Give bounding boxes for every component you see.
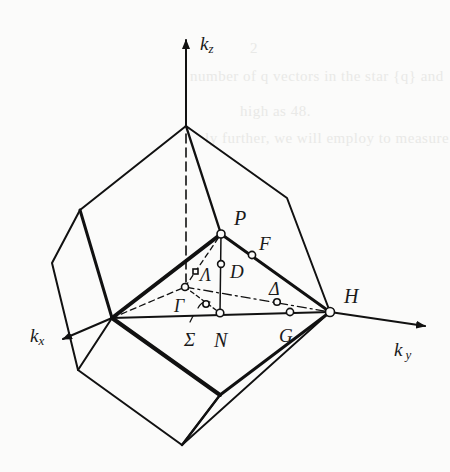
point-N [216,309,224,317]
dashed-Gamma-to-H [185,287,330,312]
point-P [217,230,225,238]
edge-UL-to-Hprime [80,210,112,318]
ky-label-sub: y [405,347,411,362]
line-P-to-N [220,234,221,313]
label-H: H [344,286,358,306]
point-G [286,308,293,315]
label-D: D [230,262,244,281]
kz-axis-label: kz [200,34,214,55]
label-N: N [214,330,227,350]
label-Delta: Δ [269,280,280,298]
kx-label-sub: x [38,333,44,348]
label-G: G [279,326,293,345]
label-F: F [259,234,271,253]
point-F [248,251,255,258]
brillouin-zone-diagram [0,0,450,472]
point-Lambda [193,269,198,274]
label-Lambda: Λ [200,266,211,284]
edge-LR-to-H [220,312,330,395]
edge-Hprime-to-LR [112,318,220,395]
point-Sigma [203,301,209,307]
kz-label-sub: z [208,41,213,56]
sigma-tick [190,316,193,322]
outer-edge-top-left [52,126,220,445]
point-H [326,308,335,317]
edge-bottom-to-H [182,312,330,445]
point-D [218,261,225,268]
edge-top-to-P [186,126,221,234]
label-P: P [234,208,246,228]
point-Delta [274,299,281,306]
label-Sigma: Σ [184,330,195,349]
ky-label-k: k [394,339,402,360]
kx-axis-label: kx [30,326,44,347]
ky-axis [330,312,425,326]
dashed-Gamma-to-N [185,287,220,313]
edge-LR-to-B [182,395,220,445]
label-Gamma: Γ [174,297,184,315]
ky-axis-label: ky [394,340,411,361]
point-Gamma [182,284,189,291]
